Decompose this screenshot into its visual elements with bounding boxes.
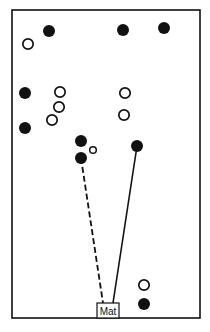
filled-player-marker — [43, 25, 55, 37]
court-diagram: Mat — [0, 0, 210, 332]
small-open-marker — [90, 147, 97, 154]
court-boundary — [12, 10, 200, 318]
open-player-marker — [139, 280, 149, 290]
filled-player-marker — [75, 152, 87, 164]
mat: Mat — [97, 303, 119, 318]
dashed-path-line — [81, 158, 103, 303]
open-player-marker — [120, 88, 130, 98]
filled-player-marker — [19, 87, 31, 99]
filled-player-marker — [158, 22, 170, 34]
solid-path-line — [113, 146, 137, 303]
filled-player-marker — [19, 122, 31, 134]
players-layer — [19, 22, 170, 310]
open-player-marker — [54, 102, 64, 112]
filled-player-marker — [75, 135, 87, 147]
filled-player-marker — [138, 298, 150, 310]
mat-label: Mat — [100, 306, 117, 317]
filled-player-marker — [131, 140, 143, 152]
open-player-marker — [55, 87, 65, 97]
filled-player-marker — [117, 24, 129, 36]
open-player-marker — [23, 39, 33, 49]
open-player-marker — [119, 110, 129, 120]
open-player-marker — [47, 115, 57, 125]
